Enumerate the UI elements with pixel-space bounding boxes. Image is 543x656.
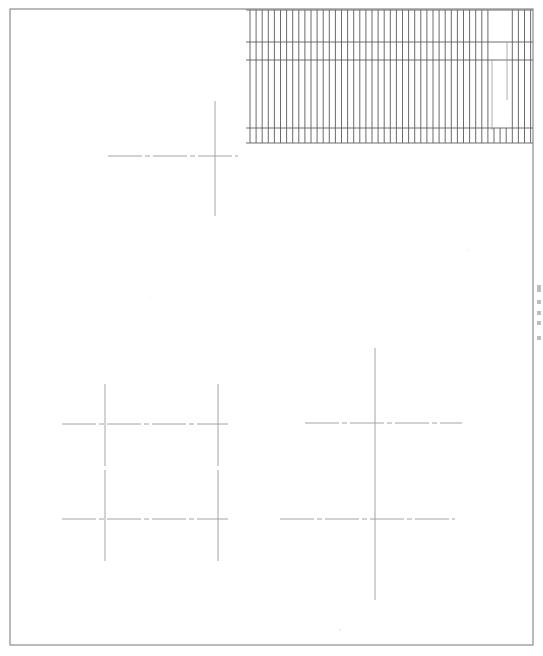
edge-mark-3	[537, 321, 541, 325]
technical-drawing-canvas	[0, 0, 543, 656]
drawing-sheet	[0, 0, 543, 656]
edge-mark-1	[537, 300, 541, 304]
scan-speckle-1	[149, 295, 150, 296]
edge-mark-4	[537, 336, 541, 340]
edge-mark-0	[537, 285, 541, 292]
edge-mark-2	[537, 311, 541, 315]
sheet-background	[0, 0, 543, 656]
scan-speckle-0	[339, 629, 341, 631]
scan-speckle-2	[467, 249, 468, 250]
